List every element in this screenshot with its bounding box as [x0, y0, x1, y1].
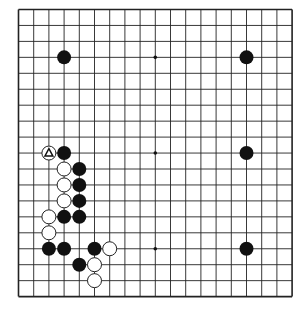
black-stone: [42, 242, 56, 256]
white-stone: [57, 162, 71, 176]
black-stone: [72, 194, 86, 208]
black-stone: [240, 50, 254, 64]
white-stone: [42, 146, 56, 160]
black-stone: [240, 242, 254, 256]
black-stone: [240, 146, 254, 160]
star-point-icon: [154, 151, 158, 155]
white-stone: [88, 274, 102, 288]
black-stone: [88, 242, 102, 256]
go-board[interactable]: [0, 0, 305, 309]
black-stone: [72, 162, 86, 176]
white-stone: [103, 242, 117, 256]
black-stone: [72, 210, 86, 224]
white-stone: [42, 210, 56, 224]
black-stone: [72, 258, 86, 272]
white-stone: [42, 226, 56, 240]
white-stone: [57, 178, 71, 192]
black-stone: [57, 242, 71, 256]
black-stone: [72, 178, 86, 192]
star-point-icon: [154, 56, 158, 60]
white-stone: [57, 194, 71, 208]
black-stone: [57, 146, 71, 160]
white-stone: [88, 258, 102, 272]
star-point-icon: [154, 247, 158, 251]
black-stone: [57, 50, 71, 64]
black-stone: [57, 210, 71, 224]
